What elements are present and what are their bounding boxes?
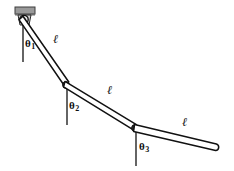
theta-2-label: θ2 [69, 100, 79, 111]
theta-1-label: θ1 [25, 38, 35, 49]
length-2-label: ℓ [107, 84, 112, 96]
pendulum-drawing [0, 0, 234, 171]
length-3-label: ℓ [182, 116, 187, 128]
ceiling-mount [15, 7, 35, 16]
rod-segment-1 [19, 16, 69, 85]
theta-2-subscript: 2 [75, 104, 79, 113]
triple-pendulum-figure: θ1 θ2 θ3 ℓ ℓ ℓ [0, 0, 234, 171]
theta-1-subscript: 1 [31, 42, 35, 51]
theta-3-subscript: 3 [145, 145, 149, 154]
length-1-label: ℓ [53, 33, 58, 45]
theta-3-label: θ3 [139, 141, 149, 152]
